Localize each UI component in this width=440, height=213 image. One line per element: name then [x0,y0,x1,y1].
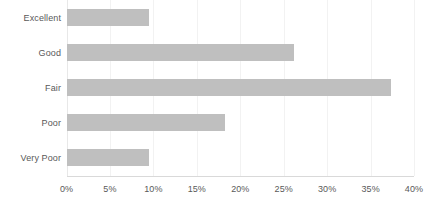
x-tick-label-5: 5% [103,184,116,195]
bar-good[interactable] [67,44,295,61]
bar-row-poor: Poor [0,114,440,131]
category-label-fair: Fair [45,82,61,93]
bar-fair[interactable] [67,79,392,96]
x-tick-label-15: 15% [188,184,206,195]
x-tick-label-25: 25% [275,184,293,195]
x-tick-label-40: 40% [405,184,423,195]
bar-row-excellent: Excellent [0,9,440,26]
bar-row-fair: Fair [0,79,440,96]
category-label-very-poor: Very Poor [21,152,61,163]
x-tick-label-0: 0% [60,184,73,195]
category-label-good: Good [39,47,61,58]
x-tick-label-35: 35% [361,184,379,195]
x-axis-line [67,176,415,177]
bar-excellent[interactable] [67,9,150,26]
bar-row-very-poor: Very Poor [0,149,440,166]
bar-very-poor[interactable] [67,149,150,166]
category-label-poor: Poor [42,117,61,128]
bar-rows: Excellent Good Fair Poor Very Poor [0,0,440,176]
bar-chart: Excellent Good Fair Poor Very Poor 0% 5%… [0,0,440,213]
x-axis: 0% 5% 10% 15% 20% 25% 30% 35% 40% [0,176,440,213]
bar-poor[interactable] [67,114,225,131]
x-tick-label-20: 20% [231,184,249,195]
bar-row-good: Good [0,44,440,61]
x-tick-label-30: 30% [318,184,336,195]
category-label-excellent: Excellent [24,12,61,23]
x-tick-label-10: 10% [144,184,162,195]
